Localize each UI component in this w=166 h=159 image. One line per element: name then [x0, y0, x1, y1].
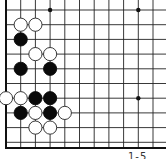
white-stone	[29, 106, 42, 119]
diagram-caption: 1-5	[128, 152, 147, 159]
star-point	[136, 96, 140, 100]
white-stone	[44, 48, 57, 61]
go-board	[0, 0, 166, 159]
black-stone	[44, 62, 57, 75]
white-stone	[0, 92, 13, 105]
white-stone	[29, 48, 42, 61]
white-stone	[14, 18, 27, 31]
star-point	[136, 8, 140, 12]
black-stone	[14, 62, 27, 75]
white-stone	[58, 106, 71, 119]
white-stone	[29, 18, 42, 31]
black-stone	[44, 92, 57, 105]
black-stone	[14, 106, 27, 119]
star-point	[48, 8, 52, 12]
white-stone	[29, 121, 42, 134]
black-stone	[14, 33, 27, 46]
black-stone	[44, 106, 57, 119]
white-stone	[14, 92, 27, 105]
white-stone	[44, 121, 57, 134]
black-stone	[29, 92, 42, 105]
